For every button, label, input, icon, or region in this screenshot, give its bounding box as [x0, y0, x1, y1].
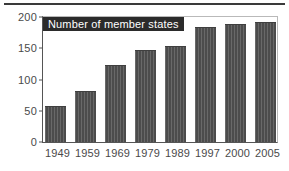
- bar-chart-figure: 050100150200 194919591969197919891997200…: [0, 0, 289, 171]
- bar-2000[interactable]: [225, 24, 246, 142]
- bar-slot: [225, 17, 246, 142]
- chart-title-banner: Number of member states: [43, 17, 184, 31]
- bar-series-group: [43, 17, 277, 142]
- bar-1949[interactable]: [45, 106, 66, 142]
- x-axis-tick-labels: 19491959196919791989199720002005: [43, 147, 277, 159]
- x-axis-tick-label: 1997: [195, 147, 216, 159]
- bar-1989[interactable]: [165, 46, 186, 142]
- chart-page: 050100150200 194919591969197919891997200…: [0, 0, 289, 171]
- bar-slot: [45, 17, 66, 142]
- bar-slot: [135, 17, 156, 142]
- x-axis-tick-label: 1959: [75, 147, 96, 159]
- bar-slot: [75, 17, 96, 142]
- x-axis-tick-label: 1949: [45, 147, 66, 159]
- bar-slot: [255, 17, 276, 142]
- bar-1997[interactable]: [195, 27, 216, 142]
- x-axis-tick-label: 1969: [105, 147, 126, 159]
- x-axis-tick-label: 2005: [255, 147, 276, 159]
- bar-slot: [105, 17, 126, 142]
- bar-2005[interactable]: [255, 22, 276, 142]
- x-axis-tick-label: 1989: [165, 147, 186, 159]
- bar-slot: [195, 17, 216, 142]
- bar-slot: [165, 17, 186, 142]
- x-axis-tick-label: 1979: [135, 147, 156, 159]
- bar-1979[interactable]: [135, 50, 156, 143]
- x-axis-tick-label: 2000: [225, 147, 246, 159]
- bar-1959[interactable]: [75, 91, 96, 142]
- bar-1969[interactable]: [105, 65, 126, 143]
